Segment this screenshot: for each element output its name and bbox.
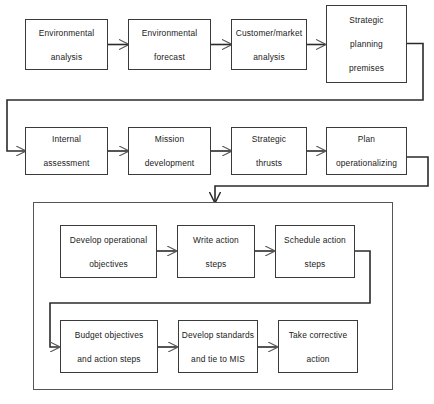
box-line-1: Customer/market xyxy=(234,27,304,39)
box-line-2: objectives xyxy=(63,258,154,270)
box-line-2: thrusts xyxy=(234,157,304,169)
box-line-2: steps xyxy=(180,258,252,270)
box-internal-assessment[interactable]: Internal assessment xyxy=(25,127,108,175)
box-line-2: assessment xyxy=(28,157,105,169)
box-line-2: development xyxy=(131,157,208,169)
box-line-2: action xyxy=(281,353,355,365)
box-line-1: Develop standards xyxy=(181,329,255,341)
box-customer-market-analysis[interactable]: Customer/market analysis xyxy=(231,19,307,70)
box-line-2: and action steps xyxy=(63,353,155,365)
box-take-corrective-action[interactable]: Take corrective action xyxy=(278,320,358,373)
box-line-2: operationalizing xyxy=(329,157,404,169)
box-develop-standards-and-tie-to-mis[interactable]: Develop standards and tie to MIS xyxy=(178,320,258,373)
box-schedule-action-steps[interactable]: Schedule action steps xyxy=(275,225,355,278)
box-line-2: analysis xyxy=(28,51,105,63)
box-strategic-thrusts[interactable]: Strategic thrusts xyxy=(231,127,307,175)
box-line-3: premises xyxy=(329,62,404,74)
box-strategic-planning-premises[interactable]: Strategic planning premises xyxy=(326,5,407,83)
box-budget-objectives-and-action-steps[interactable]: Budget objectives and action steps xyxy=(60,320,158,373)
box-line-1: Budget objectives xyxy=(63,329,155,341)
box-line-1: Strategic xyxy=(234,133,304,145)
box-line-1: Internal xyxy=(28,133,105,145)
box-environmental-forecast[interactable]: Environmental forecast xyxy=(128,19,211,70)
box-develop-operational-objectives[interactable]: Develop operational objectives xyxy=(60,225,157,278)
box-line-2: and tie to MIS xyxy=(181,353,255,365)
box-line-1: Take corrective xyxy=(281,329,355,341)
box-line-1: Write action xyxy=(180,234,252,246)
box-environmental-analysis[interactable]: Environmental analysis xyxy=(25,19,108,70)
box-line-1: Schedule action xyxy=(278,234,352,246)
box-line-2: steps xyxy=(278,258,352,270)
box-line-1: Plan xyxy=(329,133,404,145)
box-line-1: Mission xyxy=(131,133,208,145)
box-mission-development[interactable]: Mission development xyxy=(128,127,211,175)
box-line-1: Environmental xyxy=(28,27,105,39)
box-line-2: planning xyxy=(329,38,404,50)
box-plan-operationalizing[interactable]: Plan operationalizing xyxy=(326,127,407,175)
box-line-1: Environmental xyxy=(131,27,208,39)
box-line-1: Develop operational xyxy=(63,234,154,246)
box-write-action-steps[interactable]: Write action steps xyxy=(177,225,255,278)
box-line-2: analysis xyxy=(234,51,304,63)
flowchart-figure: Environmental analysis Environmental for… xyxy=(0,0,434,404)
box-line-1: Strategic xyxy=(329,14,404,26)
box-line-2: forecast xyxy=(131,51,208,63)
